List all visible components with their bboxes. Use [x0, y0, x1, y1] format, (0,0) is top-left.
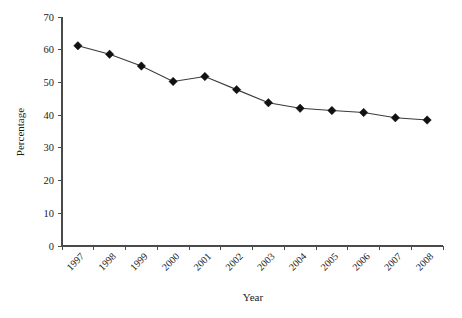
x-axis-title: Year — [243, 291, 264, 303]
y-tick-label: 10 — [44, 208, 55, 219]
y-tick-label: 60 — [44, 44, 55, 55]
y-tick-label: 70 — [44, 12, 55, 23]
line-chart: 010203040506070 199719981999200020012002… — [0, 0, 462, 318]
y-tick-label: 20 — [44, 175, 55, 186]
y-tick-label: 40 — [44, 110, 55, 121]
y-tick-label: 50 — [44, 77, 55, 88]
chart-container: 010203040506070 199719981999200020012002… — [0, 0, 462, 318]
y-tick-label: 0 — [49, 241, 54, 252]
y-axis-title: Percentage — [14, 108, 26, 156]
y-tick-label: 30 — [44, 142, 55, 153]
